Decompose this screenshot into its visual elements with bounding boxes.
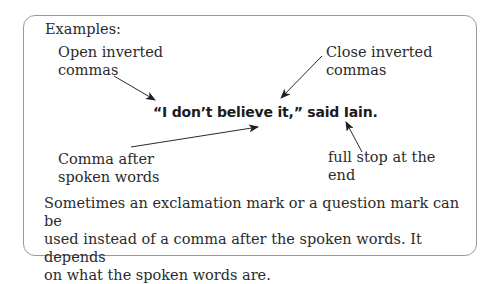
arrow-open-inverted-commas (114, 76, 155, 100)
arrow-close-inverted-commas (281, 56, 322, 98)
arrow-full-stop (346, 122, 362, 152)
arrow-comma-after (131, 127, 258, 147)
